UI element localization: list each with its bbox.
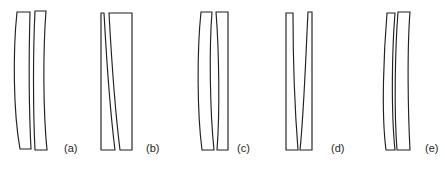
lens-panel-b: (b)	[101, 13, 159, 154]
lens-c-rear-element	[216, 12, 228, 150]
lens-panel-d: (d)	[286, 12, 344, 154]
lens-panel-a: (a)	[14, 11, 77, 154]
lens-c-front-element	[198, 12, 214, 150]
panel-label-b: (b)	[146, 142, 159, 154]
panel-label-d: (d)	[331, 142, 344, 154]
lens-panel-c: (c)	[198, 12, 250, 154]
panel-label-c: (c)	[237, 142, 250, 154]
lens-e-rear-element	[395, 12, 410, 150]
lens-d-front-element	[286, 13, 298, 150]
lens-a-front-element	[14, 12, 31, 149]
panel-label-a: (a)	[64, 142, 77, 154]
lens-a-rear-element	[34, 11, 48, 150]
panel-label-e: (e)	[425, 142, 438, 154]
lens-d-rear-element	[300, 12, 312, 150]
lens-figure: (a) (b) (c) (d) (e)	[0, 0, 445, 171]
lens-panel-e: (e)	[383, 12, 438, 154]
lens-e-front-element	[383, 13, 395, 150]
